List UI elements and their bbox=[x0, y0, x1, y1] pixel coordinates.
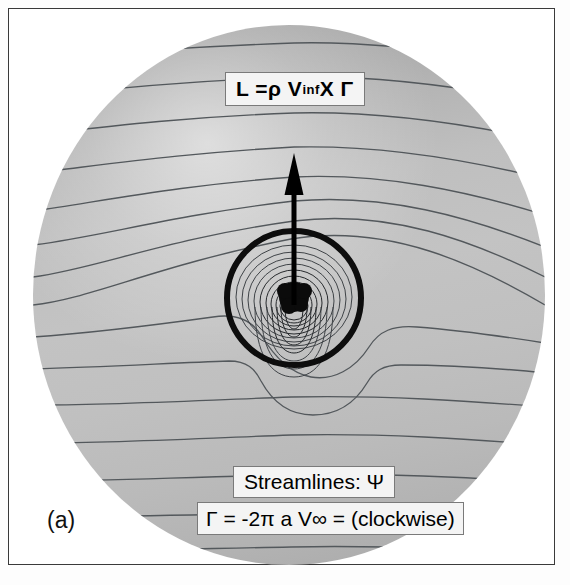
streamlines-label: Streamlines: Ψ bbox=[233, 466, 395, 498]
lift-equation-suffix: X Γ bbox=[320, 77, 354, 101]
lift-equation-prefix: L = bbox=[236, 77, 268, 101]
figure-frame: L = ρ VinfX Γ Streamlines: Ψ Γ = -2π a V… bbox=[8, 8, 555, 565]
circulation-label: Γ = -2π a V∞ = (clockwise) bbox=[197, 502, 464, 535]
figure-panel: L = ρ VinfX Γ Streamlines: Ψ Γ = -2π a V… bbox=[0, 0, 570, 585]
panel-label: (a) bbox=[47, 507, 75, 534]
lift-equation-label: L = ρ VinfX Γ bbox=[225, 72, 365, 106]
lift-equation-rho: ρ V bbox=[268, 77, 302, 101]
lift-equation-subscript: inf bbox=[302, 82, 319, 97]
